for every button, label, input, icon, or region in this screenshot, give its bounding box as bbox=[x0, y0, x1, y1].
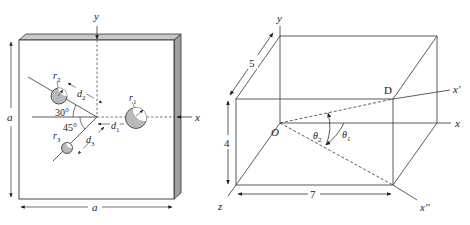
x-prime-label: x' bbox=[452, 83, 461, 95]
figure-canvas: y x 30° 45° r1 r2 bbox=[0, 0, 470, 225]
plate-face bbox=[19, 40, 174, 199]
plate-side-edge bbox=[174, 34, 181, 199]
origin-label: O bbox=[271, 126, 279, 138]
y-axis-3d-label: y bbox=[276, 12, 282, 24]
x-prime-axis bbox=[393, 90, 450, 99]
height-3d-label: 4 bbox=[224, 137, 230, 149]
width-label: a bbox=[92, 201, 98, 213]
edge-bottom-right bbox=[393, 123, 437, 185]
plate-top-edge bbox=[19, 34, 181, 40]
width-3d-label: 7 bbox=[310, 188, 316, 200]
depth-label: 5 bbox=[249, 57, 255, 69]
x-double-prime-label: x'' bbox=[419, 201, 430, 213]
z-axis-3d-label: z bbox=[217, 200, 223, 212]
theta2-arc bbox=[326, 113, 330, 145]
y-axis-label: y bbox=[93, 10, 99, 22]
line-O-bottom-corner bbox=[280, 123, 393, 185]
plate-figure: y x 30° 45° r1 r2 bbox=[7, 10, 200, 213]
angle-45-label: 45° bbox=[63, 122, 77, 133]
x-axis-3d-label: x bbox=[454, 117, 460, 129]
edge-top-right bbox=[393, 36, 437, 99]
box-figure bbox=[228, 26, 451, 200]
theta1-label: θ1 bbox=[342, 129, 351, 143]
angle-30-label: 30° bbox=[55, 107, 69, 118]
z-axis-3d bbox=[228, 185, 236, 196]
line-OD bbox=[280, 99, 393, 123]
corner-D-label: D bbox=[384, 84, 392, 96]
theta2-label: θ2 bbox=[313, 130, 322, 144]
x-double-prime-axis bbox=[393, 185, 417, 200]
x-axis-label: x bbox=[194, 111, 200, 123]
height-label: a bbox=[7, 111, 13, 123]
